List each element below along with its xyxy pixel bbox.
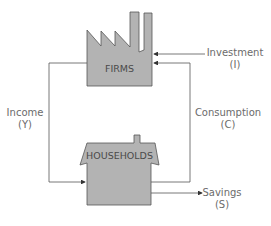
firms-label: FIRMS (87, 63, 152, 74)
consumption-symbol: (C) (190, 119, 266, 131)
consumption-name: Consumption (190, 107, 266, 119)
savings-symbol: (S) (202, 199, 242, 211)
factory-icon (87, 12, 152, 86)
income-symbol: (Y) (5, 119, 45, 131)
investment-label: Investment (I) (205, 47, 265, 71)
savings-label: Savings (S) (202, 187, 242, 211)
house-icon (80, 135, 159, 205)
investment-symbol: (I) (205, 59, 265, 71)
income-label: Income (Y) (5, 107, 45, 131)
consumption-label: Consumption (C) (190, 107, 266, 131)
savings-name: Savings (202, 187, 242, 199)
investment-name: Investment (205, 47, 265, 59)
income-name: Income (5, 107, 45, 119)
households-label: HOUSEHOLDS (80, 150, 159, 161)
